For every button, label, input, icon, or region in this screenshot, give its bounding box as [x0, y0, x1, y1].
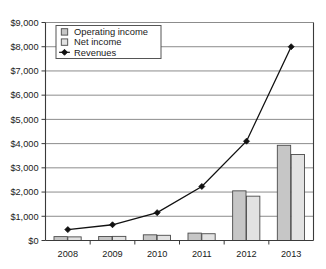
x-axis-tick-label: 2008 [58, 249, 78, 259]
bar [233, 191, 246, 241]
y-axis-tick-label: $3,000 [10, 163, 38, 173]
x-axis-tick-label: 2013 [281, 249, 301, 259]
y-axis-tick-label: $8,000 [10, 42, 38, 52]
bar [291, 155, 304, 241]
chart-legend: Operating incomeNet incomeRevenues [56, 26, 161, 59]
y-axis-tick-label: $1,000 [10, 212, 38, 222]
bar [113, 236, 126, 240]
y-axis-tick-label: $7,000 [10, 66, 38, 76]
bar [202, 234, 215, 241]
x-axis-tick-label: 2010 [147, 249, 167, 259]
y-axis-tick-label: $4,000 [10, 139, 38, 149]
bar [277, 145, 290, 240]
y-axis-tick-label: $6,000 [10, 90, 38, 100]
y-axis-tick-label: $9,000 [10, 18, 38, 28]
bar [157, 235, 170, 240]
revenue-income-chart: $0$1,000$2,000$3,000$4,000$5,000$6,000$7… [0, 0, 326, 269]
legend-swatch-square-icon [61, 29, 67, 35]
legend-entry-label: Revenues [74, 47, 117, 58]
chart-container: $0$1,000$2,000$3,000$4,000$5,000$6,000$7… [0, 0, 326, 269]
y-axis-tick-label: $5,000 [10, 115, 38, 125]
bar [247, 196, 260, 240]
y-axis-tick-label: $0 [28, 236, 38, 246]
bar [54, 237, 67, 241]
x-axis-tick-label: 2011 [192, 249, 212, 259]
x-axis-tick-label: 2012 [236, 249, 256, 259]
y-axis-tick-label: $2,000 [10, 187, 38, 197]
bar [99, 237, 112, 241]
legend-swatch-square-icon [61, 39, 67, 45]
bar [143, 235, 156, 241]
x-axis-tick-label: 2009 [102, 249, 122, 259]
bar [188, 233, 201, 240]
